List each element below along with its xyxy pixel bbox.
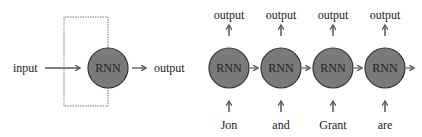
rnn-node-label: RNN	[372, 61, 398, 75]
step-output-label: output	[266, 8, 297, 22]
rnn-node-label: RNN	[268, 61, 294, 75]
rnn-node-label: RNN	[95, 61, 121, 75]
input-label: input	[13, 61, 38, 75]
step-input-label: Grant	[319, 118, 347, 132]
step-2: output RNN Grant	[313, 8, 362, 132]
step-output-label: output	[370, 8, 401, 22]
step-1: output RNN and	[261, 8, 310, 132]
step-output-label: output	[318, 8, 349, 22]
step-input-label: Jon	[221, 118, 238, 132]
unrolled-rnn: output RNN Jon output RNN and output RNN…	[209, 8, 414, 132]
rnn-node-label: RNN	[216, 61, 242, 75]
step-0: output RNN Jon	[209, 8, 258, 132]
folded-rnn: input RNN output	[13, 17, 185, 106]
step-input-label: and	[272, 118, 289, 132]
output-label: output	[154, 61, 185, 75]
step-3: output RNN are	[365, 8, 414, 132]
step-output-label: output	[214, 8, 245, 22]
step-input-label: are	[378, 118, 393, 132]
rnn-diagram: input RNN output output RNN Jon output R…	[0, 0, 422, 137]
rnn-node-label: RNN	[320, 61, 346, 75]
